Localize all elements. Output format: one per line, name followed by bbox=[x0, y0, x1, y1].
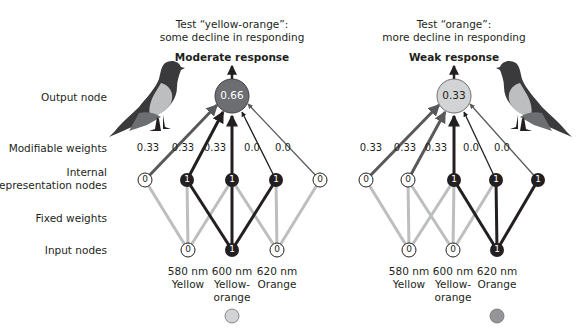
right-internal-node-2: 0 bbox=[393, 174, 423, 184]
label-input-nodes: Input nodes bbox=[45, 244, 107, 257]
right-color-swatch bbox=[490, 309, 504, 323]
left-internal-node-4: 1 bbox=[261, 174, 291, 184]
right-title-line2: more decline in responding bbox=[374, 31, 534, 44]
left-weight-4: 0.0 bbox=[237, 142, 267, 153]
left-response-label: Moderate response bbox=[172, 51, 292, 63]
label-fixed-weights: Fixed weights bbox=[36, 212, 107, 225]
right-fixed-weights bbox=[366, 180, 538, 250]
right-input-node-2: 0 bbox=[438, 244, 468, 254]
left-output-value: 0.66 bbox=[217, 89, 247, 101]
right-input-label-3: 620 nm Orange bbox=[467, 265, 527, 291]
left-internal-node-2: 1 bbox=[172, 174, 202, 184]
right-weight-2: 0.33 bbox=[390, 142, 420, 153]
right-weight-5: 0.0 bbox=[487, 142, 517, 153]
right-internal-node-5: 1 bbox=[523, 174, 553, 184]
right-weight-1: 0.33 bbox=[356, 142, 386, 153]
left-color-swatch bbox=[225, 309, 239, 323]
label-output-node: Output node bbox=[41, 91, 107, 104]
label-internal-line2: representation nodes bbox=[0, 179, 107, 192]
right-title-line1: Test “orange”: bbox=[394, 18, 514, 31]
right-internal-node-3: 1 bbox=[439, 174, 469, 184]
pigeon-icon-right bbox=[496, 61, 572, 137]
right-internal-node-4: 1 bbox=[481, 174, 511, 184]
left-input-node-2: 1 bbox=[217, 244, 247, 254]
left-weight-3: 0.33 bbox=[200, 142, 230, 153]
left-input-node-3: 0 bbox=[262, 244, 292, 254]
left-input-label-3: 620 nm Orange bbox=[247, 265, 307, 291]
left-internal-node-3: 1 bbox=[217, 174, 247, 184]
left-fixed-weights bbox=[145, 180, 320, 250]
right-response-label: Weak response bbox=[394, 51, 514, 63]
left-weight-5: 0.0 bbox=[268, 142, 298, 153]
left-internal-node-5: 0 bbox=[305, 174, 335, 184]
right-weight-3: 0.33 bbox=[421, 142, 451, 153]
left-input-node-1: 0 bbox=[173, 244, 203, 254]
left-internal-node-1: 0 bbox=[130, 174, 160, 184]
left-weight-1: 0.33 bbox=[133, 142, 163, 153]
left-title-line1: Test “yellow-orange”: bbox=[162, 18, 302, 31]
right-input-node-1: 0 bbox=[394, 244, 424, 254]
pigeon-icon-left bbox=[109, 61, 185, 137]
right-output-value: 0.33 bbox=[439, 89, 469, 101]
right-internal-node-1: 0 bbox=[351, 174, 381, 184]
right-input-node-3: 1 bbox=[482, 244, 512, 254]
left-weight-2: 0.33 bbox=[168, 142, 198, 153]
left-title-line2: some decline in responding bbox=[152, 31, 312, 44]
right-weight-4: 0.0 bbox=[456, 142, 486, 153]
label-modifiable-weights: Modifiable weights bbox=[9, 142, 107, 155]
label-internal-line1: Internal bbox=[67, 166, 107, 179]
